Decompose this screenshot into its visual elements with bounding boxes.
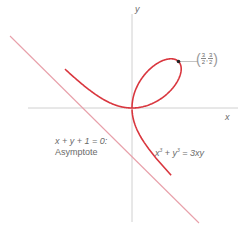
asymptote-label: Asymptote — [55, 147, 98, 157]
x-axis-label: x — [225, 112, 230, 122]
marked-point-dot — [177, 60, 181, 64]
eq-rhs: = 3xy — [180, 148, 204, 158]
marked-point-label: (32,32) — [196, 52, 218, 65]
eq-plus: + — [162, 148, 172, 158]
close-paren: ) — [213, 51, 218, 67]
curve-equation: x3 + y3 = 3xy — [155, 145, 204, 158]
plot-canvas — [0, 0, 244, 231]
folium-diagram: y x (32,32) x + y + 1 = 0: Asymptote x3 … — [0, 0, 244, 231]
x-denominator: 2 — [202, 59, 205, 65]
y-axis-label: y — [135, 4, 140, 14]
y-denominator: 2 — [209, 59, 212, 65]
asymptote-line — [10, 36, 199, 223]
asymptote-equation: x + y + 1 = 0: — [55, 136, 107, 146]
